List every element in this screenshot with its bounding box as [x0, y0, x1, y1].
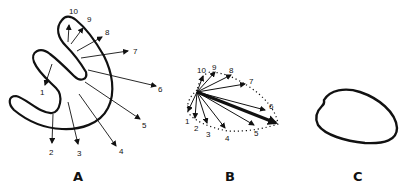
svg-text:8: 8 — [105, 28, 110, 37]
svg-text:4: 4 — [119, 147, 124, 156]
s-shaped-outline — [10, 17, 113, 129]
svg-text:7: 7 — [133, 47, 138, 56]
svg-text:6: 6 — [269, 102, 274, 111]
svg-text:10: 10 — [197, 66, 206, 75]
svg-text:6: 6 — [158, 85, 163, 94]
vector-labels-b: 1 2 3 4 5 6 7 8 9 10 — [185, 63, 274, 143]
panel-b: 1 2 3 4 5 6 7 8 9 10 B — [185, 63, 278, 184]
vectors-b — [188, 72, 276, 128]
svg-text:9: 9 — [212, 63, 217, 72]
svg-text:4: 4 — [225, 134, 230, 143]
svg-text:2: 2 — [49, 148, 54, 157]
closed-loop-outline — [316, 90, 397, 144]
panel-label-b: B — [225, 169, 235, 184]
svg-text:3: 3 — [206, 130, 211, 139]
svg-text:9: 9 — [87, 15, 92, 24]
svg-text:2: 2 — [194, 124, 199, 133]
panel-label-a: A — [73, 169, 83, 184]
vectors-a — [45, 25, 156, 146]
panel-label-c: C — [353, 169, 363, 184]
figure-canvas: 1 2 3 4 5 6 7 8 9 10 A 1 — [0, 0, 405, 188]
svg-text:8: 8 — [229, 66, 234, 75]
svg-text:10: 10 — [69, 7, 78, 16]
svg-text:1: 1 — [185, 117, 190, 126]
svg-text:3: 3 — [77, 149, 82, 158]
panel-c: C — [316, 90, 397, 184]
svg-text:5: 5 — [254, 129, 259, 138]
svg-text:5: 5 — [142, 121, 147, 130]
panel-a: 1 2 3 4 5 6 7 8 9 10 A — [10, 7, 163, 184]
svg-text:7: 7 — [249, 77, 254, 86]
svg-text:1: 1 — [40, 88, 45, 97]
